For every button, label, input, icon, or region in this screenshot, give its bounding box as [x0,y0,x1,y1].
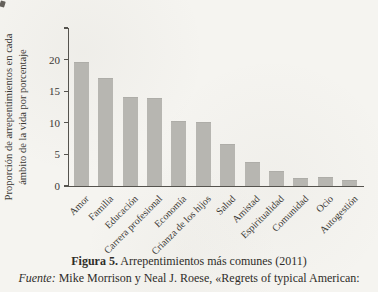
bar-10 [293,178,308,186]
y-tick-mark [64,122,68,123]
bar-12 [342,180,357,186]
y-tick-mark [64,59,68,60]
bar-5 [171,121,186,186]
figure-source: Fuente: Mike Morrison y Neal J. Roese, «… [0,271,378,286]
y-tick-mark [64,91,68,92]
x-labels: AmorFamiliaEducaciónCarrera profesionalE… [68,189,362,261]
bar-2 [98,78,113,186]
y-tick-mark [64,27,68,28]
y-tick-mark [64,185,68,186]
bar-3 [123,97,138,187]
x-axis-line [68,186,364,187]
bar-6 [196,122,211,186]
bars plot-area [69,28,362,186]
y-ticks: 05101520 [0,28,68,186]
bar-4 [147,98,162,186]
figure-number: Figura 5. [71,254,118,268]
bar-8 [245,162,260,186]
figure-title-text: Arrepentimientos más comunes (2011) [118,254,307,268]
bar-11 [318,177,333,186]
figure-title: Figura 5. Arrepentimientos más comunes (… [0,254,378,269]
figure-caption: Figura 5. Arrepentimientos más comunes (… [0,254,378,286]
source-label: Fuente: [18,271,55,285]
bar-1 [74,62,89,186]
bar-7 [220,144,235,186]
scanned-book-page: Proporción de arrepentimientos en cada á… [0,0,378,292]
y-tick-mark [64,154,68,155]
source-text: Mike Morrison y Neal J. Roese, «Regrets … [56,271,360,285]
bar-9 [269,171,284,186]
scan-artifact [0,0,6,7]
